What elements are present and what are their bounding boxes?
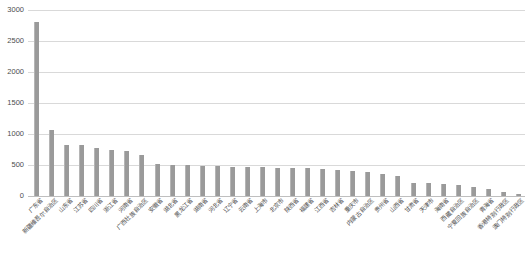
plot-area bbox=[28, 10, 525, 196]
y-axis: 050010001500200025003000 bbox=[0, 10, 24, 196]
x-axis-tick-label-wrapper: 山东省 bbox=[57, 197, 74, 214]
bar bbox=[365, 172, 370, 196]
y-axis-tick-label: 1000 bbox=[0, 130, 24, 138]
bar bbox=[185, 165, 190, 196]
x-axis-tick-label-wrapper: 四川省 bbox=[87, 197, 104, 214]
x-axis-tick-label: 北京市 bbox=[268, 197, 285, 214]
bar bbox=[34, 22, 39, 196]
x-axis-tick-label-wrapper: 安徽省 bbox=[147, 197, 164, 214]
y-axis-tick-label: 500 bbox=[0, 161, 24, 169]
x-axis-tick-label-wrapper: 云南省 bbox=[238, 197, 255, 214]
x-axis-tick-label: 江西省 bbox=[313, 197, 330, 214]
x-axis-tick-label-wrapper: 山西省 bbox=[388, 197, 405, 214]
bar bbox=[456, 185, 461, 196]
y-axis-tick-label: 2000 bbox=[0, 68, 24, 76]
x-axis-tick-label: 浙江省 bbox=[102, 197, 119, 214]
x-axis-tick-label-wrapper: 陕西省 bbox=[283, 197, 300, 214]
bar bbox=[275, 168, 280, 196]
x-axis-tick-label: 甘肃省 bbox=[403, 197, 420, 214]
y-axis-tick-label: 1500 bbox=[0, 99, 24, 107]
bar bbox=[170, 165, 175, 196]
bar bbox=[200, 166, 205, 196]
bars-series bbox=[28, 10, 525, 196]
y-axis-tick-label: 2500 bbox=[0, 37, 24, 45]
x-axis-tick-label-wrapper: 江苏省 bbox=[72, 197, 89, 214]
x-axis-tick-label-wrapper: 吉林省 bbox=[328, 197, 345, 214]
bar bbox=[109, 150, 114, 196]
x-axis-tick-label-wrapper: 北京市 bbox=[268, 197, 285, 214]
bar bbox=[471, 187, 476, 196]
x-axis-tick-label-wrapper: 甘肃省 bbox=[403, 197, 420, 214]
bar bbox=[230, 167, 235, 196]
x-axis-tick-label: 辽宁省 bbox=[223, 197, 240, 214]
y-axis-tick-label: 0 bbox=[0, 192, 24, 200]
x-axis-tick-label-wrapper: 福建省 bbox=[298, 197, 315, 214]
x-axis-tick-label: 湖南省 bbox=[192, 197, 209, 214]
bar bbox=[49, 130, 54, 196]
bar bbox=[94, 148, 99, 196]
x-axis-tick-label: 安徽省 bbox=[147, 197, 164, 214]
bar bbox=[395, 176, 400, 196]
y-axis-tick-label: 3000 bbox=[0, 6, 24, 14]
bar bbox=[486, 189, 491, 196]
x-axis-tick-label: 山西省 bbox=[388, 197, 405, 214]
x-axis-tick-label: 四川省 bbox=[87, 197, 104, 214]
x-axis-tick-label-wrapper: 上海市 bbox=[253, 197, 270, 214]
bar bbox=[124, 151, 129, 196]
x-axis-tick-label-wrapper: 贵州省 bbox=[373, 197, 390, 214]
x-axis-tick-label-wrapper: 湖南省 bbox=[192, 197, 209, 214]
bar bbox=[155, 164, 160, 196]
x-axis-category-labels: 广东省新疆维吾尔自治区山东省江苏省四川省浙江省河南省广西壮族自治区安徽省湖北省黑… bbox=[28, 197, 525, 258]
x-axis-tick-label-wrapper: 辽宁省 bbox=[223, 197, 240, 214]
x-axis-tick-label: 云南省 bbox=[238, 197, 255, 214]
x-axis-tick-label: 天津市 bbox=[418, 197, 435, 214]
bar bbox=[441, 184, 446, 196]
x-axis-tick-label: 山东省 bbox=[57, 197, 74, 214]
bar bbox=[290, 168, 295, 196]
bar bbox=[501, 192, 506, 196]
x-axis-tick-label: 河北省 bbox=[208, 197, 225, 214]
x-axis-tick-label-wrapper: 河北省 bbox=[208, 197, 225, 214]
bar bbox=[350, 171, 355, 196]
bar bbox=[380, 174, 385, 196]
x-axis-tick-label: 吉林省 bbox=[328, 197, 345, 214]
x-axis-tick-label: 贵州省 bbox=[373, 197, 390, 214]
bar bbox=[245, 167, 250, 196]
bar bbox=[426, 183, 431, 196]
bar bbox=[516, 194, 521, 196]
bar bbox=[320, 169, 325, 196]
bar bbox=[215, 166, 220, 196]
x-axis-tick-label: 福建省 bbox=[298, 197, 315, 214]
bar bbox=[411, 183, 416, 196]
x-axis-tick-label-wrapper: 浙江省 bbox=[102, 197, 119, 214]
bar bbox=[79, 145, 84, 196]
bar bbox=[335, 170, 340, 196]
bar-chart-figure: 050010001500200025003000 广东省新疆维吾尔自治区山东省江… bbox=[0, 0, 531, 258]
x-axis-tick-label: 陕西省 bbox=[283, 197, 300, 214]
bar bbox=[260, 167, 265, 196]
x-axis-tick-label: 江苏省 bbox=[72, 197, 89, 214]
bar bbox=[139, 155, 144, 196]
x-axis-tick-label-wrapper: 江西省 bbox=[313, 197, 330, 214]
bar bbox=[305, 168, 310, 196]
bar bbox=[64, 145, 69, 196]
x-axis-tick-label-wrapper: 天津市 bbox=[418, 197, 435, 214]
x-axis-tick-label: 上海市 bbox=[253, 197, 270, 214]
